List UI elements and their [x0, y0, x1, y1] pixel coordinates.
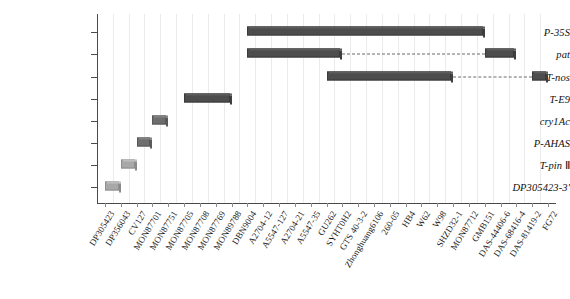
bar-segment [105, 182, 121, 193]
gridline [224, 14, 225, 203]
y-axis-label: DP305423-3' [482, 182, 570, 193]
y-axis-tick [91, 54, 97, 55]
x-axis-tick [437, 203, 438, 207]
x-axis-tick [469, 203, 470, 207]
y-axis-tick [91, 77, 97, 78]
x-axis-tick [532, 203, 533, 207]
gridline [319, 14, 320, 203]
bar-side-face [119, 184, 121, 193]
gridline [540, 14, 541, 203]
x-axis-tick [263, 203, 264, 207]
gridline [382, 14, 383, 203]
gridline [334, 14, 335, 203]
y-axis-tick [91, 121, 97, 122]
x-axis-label: W62 [415, 209, 433, 229]
y-axis-tick [91, 165, 97, 166]
x-axis-tick [516, 203, 517, 207]
gridline [160, 14, 161, 203]
bar-segment [532, 71, 548, 82]
bar-top-face [249, 49, 342, 51]
x-axis-tick [137, 203, 138, 207]
gridline [303, 14, 304, 203]
gridline [414, 14, 415, 203]
y-axis-tick [91, 143, 97, 144]
bar-top-face [186, 93, 231, 95]
x-axis-tick [184, 203, 185, 207]
bar-side-face [546, 73, 548, 82]
x-axis-tick [216, 203, 217, 207]
bar-segment [247, 27, 484, 38]
x-axis-label: FG72 [540, 209, 560, 232]
bar-connector-line [453, 76, 532, 77]
gridline [144, 14, 145, 203]
x-axis-tick [453, 203, 454, 207]
x-axis-tick [279, 203, 280, 207]
gridline [366, 14, 367, 203]
bar-segment [184, 93, 231, 104]
bar-segment [137, 137, 153, 148]
y-axis-tick [91, 99, 97, 100]
gridline [129, 14, 130, 203]
y-axis-tick [91, 187, 97, 188]
x-axis-tick [485, 203, 486, 207]
gridline [493, 14, 494, 203]
gridline [208, 14, 209, 203]
gridline [255, 14, 256, 203]
bar-side-face [483, 29, 485, 38]
x-axis-tick [105, 203, 106, 207]
x-axis-tick [548, 203, 549, 207]
gridline [271, 14, 272, 203]
gridline [429, 14, 430, 203]
gantt-chart-figure: DP305423-3'T-pin ⅡP-AHAScry1AcT-E9T-nosp… [0, 0, 570, 299]
x-axis-tick [501, 203, 502, 207]
bar-side-face [451, 73, 453, 82]
x-axis-tick [168, 203, 169, 207]
gridline [461, 14, 462, 203]
gridline [176, 14, 177, 203]
x-axis-tick [152, 203, 153, 207]
x-axis-tick [406, 203, 407, 207]
gridline [477, 14, 478, 203]
bar-side-face [230, 95, 232, 104]
y-axis-label: T-pin Ⅱ [482, 159, 570, 171]
y-axis-line [97, 14, 98, 204]
bar-top-face [249, 27, 484, 29]
y-axis-label: P-35S [482, 27, 570, 38]
bar-side-face [150, 139, 152, 148]
x-axis-tick [358, 203, 359, 207]
bar-top-face [329, 71, 454, 73]
bar-side-face [340, 51, 342, 60]
x-axis-tick [200, 203, 201, 207]
x-axis-tick [232, 203, 233, 207]
gridline [398, 14, 399, 203]
x-axis-tick [421, 203, 422, 207]
bar-top-face [487, 49, 517, 51]
bar-connector-line [342, 54, 484, 55]
x-axis-tick [247, 203, 248, 207]
gridline [192, 14, 193, 203]
plot-area [97, 14, 555, 203]
bar-side-face [135, 161, 137, 170]
y-axis-tick [91, 32, 97, 33]
bar-side-face [166, 117, 168, 126]
gridline [445, 14, 446, 203]
gridline [239, 14, 240, 203]
x-axis-tick [121, 203, 122, 207]
bar-segment [485, 49, 517, 60]
y-axis-label: T-E9 [482, 93, 570, 104]
gridline [113, 14, 114, 203]
gridline [350, 14, 351, 203]
y-axis-label: P-AHAS [482, 137, 570, 148]
x-axis-label: HB4 [399, 209, 417, 229]
bar-segment [327, 71, 454, 82]
gridline [524, 14, 525, 203]
x-axis-tick [342, 203, 343, 207]
gridline [287, 14, 288, 203]
y-axis-label: cry1Ac [482, 115, 570, 126]
bar-segment [121, 159, 137, 170]
gridline [509, 14, 510, 203]
x-axis-tick [374, 203, 375, 207]
x-axis-tick [390, 203, 391, 207]
bar-segment [247, 49, 342, 60]
x-axis-tick [327, 203, 328, 207]
